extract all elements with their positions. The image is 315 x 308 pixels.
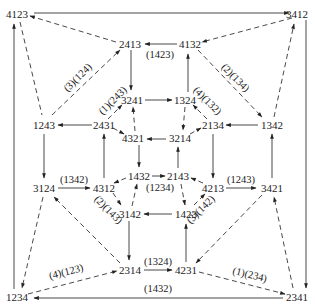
node-3412: 3412 [286, 8, 308, 20]
edge-2134-1324 [193, 105, 207, 119]
edge-2143-1423 [181, 184, 185, 205]
edge-1432-4312 [114, 178, 126, 183]
edge-label-1342: (1342) [60, 174, 88, 186]
node-2431: 2431 [93, 119, 115, 131]
node-4231: 4231 [175, 264, 197, 276]
edge-4312-3142 [113, 193, 121, 205]
edge-label-1243: (1243) [227, 174, 255, 186]
edge-4321-3241 [133, 107, 135, 131]
node-2413: 2413 [119, 38, 142, 50]
edge-label-1234: (1234) [146, 182, 174, 194]
edge-label-2-134: (2)(134) [219, 61, 253, 95]
edge-3142-1432 [132, 184, 137, 206]
node-2134: 2134 [202, 119, 225, 131]
edge-label-3-124: (3)(124) [61, 61, 95, 95]
node-1342: 1342 [261, 119, 283, 131]
node-4312: 4312 [93, 182, 115, 194]
edge-2341-3421 [274, 197, 293, 288]
edge-label-1432: (1432) [144, 283, 172, 295]
node-4132: 4132 [179, 38, 201, 50]
node-1324: 1324 [174, 94, 197, 106]
edge-label-1423: (1423) [146, 49, 174, 61]
permutation-diagram: 4123 3412 2413 4132 3241 1324 1243 2431 … [0, 0, 315, 308]
edge-label-1-234: (1)(234) [231, 265, 268, 285]
node-4213: 4213 [202, 182, 225, 194]
node-1432: 1432 [128, 170, 150, 182]
edge-3412-4132 [202, 18, 292, 42]
node-1243: 1243 [33, 119, 56, 131]
node-3214: 3214 [169, 132, 192, 144]
edge-1342-3412 [274, 24, 294, 117]
edge-3124-1234 [22, 197, 43, 288]
edge-3214-2134 [190, 128, 201, 134]
edge-4123-1243 [20, 22, 42, 115]
node-4321: 4321 [122, 132, 144, 144]
node-1234: 1234 [6, 291, 29, 303]
node-2314: 2314 [119, 264, 142, 276]
node-4123: 4123 [6, 8, 29, 20]
edge-2413-4123 [30, 16, 116, 42]
edge-label-4-123: (4)(123) [48, 262, 85, 282]
node-2143: 2143 [167, 170, 190, 182]
node-3124: 3124 [33, 182, 56, 194]
edge-1324-3214 [183, 107, 185, 130]
node-3421: 3421 [261, 182, 283, 194]
edge-label-1324: (1324) [144, 256, 172, 268]
node-2341: 2341 [286, 291, 308, 303]
